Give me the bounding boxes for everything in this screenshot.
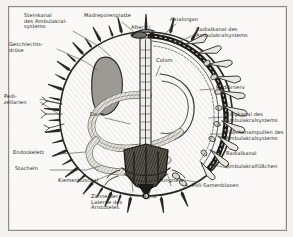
label-endoskelett: Endoskelett [13,150,59,156]
label-colom: Colom [156,58,182,64]
label-geschlechtsdruese: Geschlechts- drüse [9,42,51,53]
label-after: After [131,25,155,31]
label-ringkanal-ambulakralsystems: Ringkanal des Ambulakralsystems [226,112,292,123]
label-steinkanal: Steinkanal des Ambulakral- systems [24,13,76,30]
label-darm: Darm [90,112,114,118]
label-radiaernerv: Radiärnerv [216,85,256,91]
label-mund: Mund [136,194,162,200]
label-axialorgan: Axialorgan [170,17,210,23]
label-ambulakralfuesschen: Ambulakralfüßchen [226,164,288,170]
label-radialkanal-ambulakralsystems: Radialkanal des Ambulakralsystems [196,27,272,38]
label-zaehne-laterne-aristoteles: Zähne der Laterne des Aristoteles [91,194,133,211]
figure-root: Steinkanal des Ambulakral- systems Gesch… [0,0,293,237]
label-poli-samenblasen: Poli-Samenblasen [192,183,248,189]
label-radialkanal: Radialkanal [226,151,274,157]
label-fuesschenampullen: Füßchenampullen des Ambulakralsystems [226,130,292,141]
label-madreporenplatte: Madreporenplatte [84,13,146,19]
label-stacheln: Stacheln [15,166,49,172]
label-kiemenbueschel: Kiemenbüschel [58,178,106,184]
anus-mark [149,32,154,37]
label-ringnerv: Ringnerv [160,178,192,184]
label-pedizellarien: Pedi- zellarien [4,94,38,105]
